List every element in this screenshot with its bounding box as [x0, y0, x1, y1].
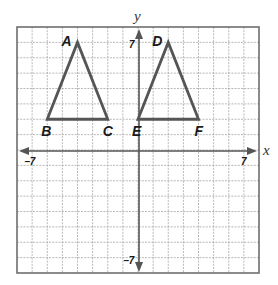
vertex-label-a: A: [61, 33, 72, 49]
x-axis: [19, 147, 257, 155]
coordinate-plane: x y −7 7 −7 7 ABCDEF: [0, 0, 278, 285]
vertex-label-c: C: [103, 123, 114, 139]
vertex-label-d: D: [152, 33, 162, 49]
y-axis-down-arrow-icon: [135, 262, 143, 272]
x-axis-left-arrow-icon: [19, 147, 29, 155]
y-tick-min: −7: [123, 255, 135, 266]
triangle-def: DEF: [132, 33, 204, 139]
y-axis-label: y: [132, 8, 141, 24]
vertex-label-b: B: [41, 123, 51, 139]
grid: [17, 27, 259, 273]
triangles: ABCDEF: [41, 33, 203, 139]
x-axis-label: x: [262, 142, 270, 158]
x-tick-min: −7: [24, 156, 36, 167]
x-axis-right-arrow-icon: [247, 147, 257, 155]
y-tick-max: 7: [129, 39, 135, 50]
vertex-label-e: E: [132, 123, 142, 139]
y-axis-up-arrow-icon: [135, 29, 143, 39]
vertex-label-f: F: [195, 123, 204, 139]
x-tick-max: 7: [241, 156, 247, 167]
